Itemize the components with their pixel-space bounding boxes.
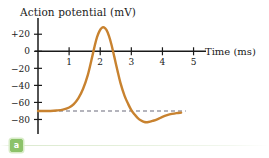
action-potential-curve [38,27,181,122]
y-tick-label: −80 [11,115,30,125]
y-tick-label: −60 [11,98,30,108]
action-potential-figure: Action potential (mV) Time (ms) 12345+20… [0,0,269,158]
x-tick-label: 2 [97,57,103,67]
y-tick-label: +20 [11,29,30,39]
y-tick-label: −20 [11,64,30,74]
x-tick-label: 1 [66,57,72,67]
plot-area: 12345+200−20−40−60−80 [0,0,269,140]
footer-divider [0,145,269,146]
part-label-badge: a [10,139,23,152]
x-tick-label: 5 [191,57,197,67]
y-tick-label: −40 [11,81,30,91]
x-tick-label: 3 [128,57,134,67]
x-tick-label: 4 [160,57,166,67]
y-tick-label: 0 [24,46,30,56]
